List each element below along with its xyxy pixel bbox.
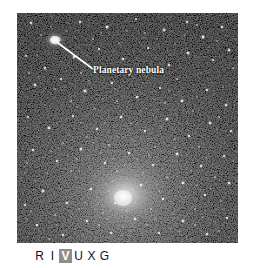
- photo-frame: Planetary nebula: [17, 13, 238, 243]
- spectrum-letter-visible: V: [59, 249, 72, 263]
- astronomy-figure: Planetary nebula R I V U X G: [0, 0, 256, 268]
- spectrum-letter-gamma: G: [98, 249, 111, 263]
- spectrum-letter-ultraviolet: U: [72, 249, 85, 263]
- spectrum-letter-radio: R: [33, 249, 46, 263]
- rivuxg-spectrum-indicator: R I V U X G: [33, 248, 111, 263]
- spectrum-letter-xray: X: [85, 249, 98, 263]
- spectrum-letter-infrared: I: [46, 249, 59, 263]
- star-field-image: [17, 13, 238, 243]
